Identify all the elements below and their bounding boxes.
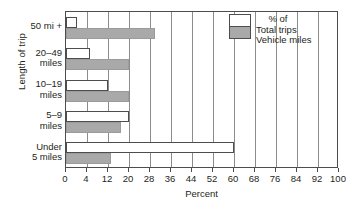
y-tick-label: Under 5 miles <box>14 142 62 163</box>
bar-vehicle <box>66 91 129 102</box>
x-tick <box>233 168 234 172</box>
bar-vehicle <box>66 122 121 133</box>
x-tick-label: 44 <box>186 173 197 184</box>
x-tick <box>170 168 171 172</box>
legend-label-vehicle-miles: Vehicle miles <box>256 35 311 46</box>
x-tick <box>128 168 129 172</box>
bar-vehicle <box>66 28 155 39</box>
x-axis-title: Percent <box>65 188 338 199</box>
y-tick-label: 20–49 miles <box>14 48 62 69</box>
x-tick-label: 36 <box>165 173 176 184</box>
legend-swatch-total-trips <box>230 15 250 27</box>
x-tick <box>212 168 213 172</box>
x-tick <box>86 168 87 172</box>
bar-chart: Length of trip Under 5 miles5–9 miles10–… <box>0 0 363 218</box>
x-tick-label: 92 <box>312 173 323 184</box>
legend-labels: % of Total trips Vehicle miles <box>256 14 311 46</box>
x-tick-label: 28 <box>144 173 155 184</box>
y-tick-label: 5–9 miles <box>14 110 62 131</box>
x-tick-label: 68 <box>249 173 260 184</box>
legend-swatches <box>229 14 251 39</box>
x-tick-label: 60 <box>228 173 239 184</box>
y-axis-tick-labels: Under 5 miles5–9 miles10–19 miles20–49 m… <box>14 11 62 168</box>
x-tick-label: 0 <box>62 173 67 184</box>
x-tick <box>296 168 297 172</box>
x-tick <box>275 168 276 172</box>
bar-vehicle <box>66 59 129 70</box>
x-tick <box>317 168 318 172</box>
y-tick-label: 10–19 miles <box>14 79 62 100</box>
x-tick-label: 12 <box>102 173 113 184</box>
x-tick-label: 20 <box>123 173 134 184</box>
x-tick <box>149 168 150 172</box>
bar-total <box>66 142 234 153</box>
legend-swatch-vehicle-miles <box>230 27 250 38</box>
gridline <box>318 12 319 167</box>
y-tick-label: 50 mi + <box>14 21 62 32</box>
bar-total <box>66 17 77 28</box>
x-tick-label: 4 <box>83 173 88 184</box>
x-tick-label: 100 <box>330 173 346 184</box>
x-tick <box>338 168 339 172</box>
legend-header: % of <box>256 14 300 25</box>
x-tick <box>191 168 192 172</box>
x-tick <box>254 168 255 172</box>
bar-total <box>66 111 129 122</box>
legend: % of Total trips Vehicle miles <box>229 14 311 46</box>
bar-total <box>66 48 90 59</box>
x-tick <box>65 168 66 172</box>
x-tick-label: 52 <box>207 173 218 184</box>
x-tick-label: 84 <box>291 173 302 184</box>
x-tick-label: 76 <box>270 173 281 184</box>
x-tick <box>107 168 108 172</box>
bar-vehicle <box>66 153 111 164</box>
bar-total <box>66 80 108 91</box>
